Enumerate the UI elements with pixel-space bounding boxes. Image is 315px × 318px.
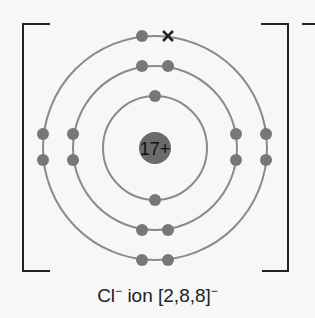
left-bracket [23,24,50,271]
bohr-model: 17+ [0,0,315,318]
caption-text: ion [2,8,8] [122,285,211,306]
chloride-ion-diagram: 17+ Cl− ion [2,8,8]− [0,0,315,318]
right-bracket [261,24,288,271]
caption: Cl− ion [2,8,8]− [0,284,315,307]
nucleus-label: 17+ [140,139,171,159]
caption-bracket-charge: − [211,284,218,298]
caption-symbol: Cl [97,285,115,306]
